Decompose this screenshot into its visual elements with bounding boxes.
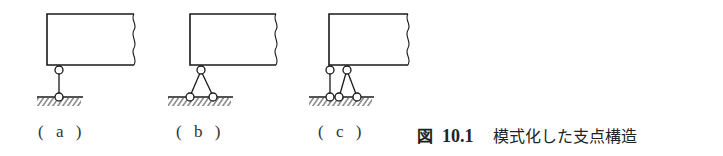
- panel-c: [309, 14, 409, 106]
- pin-top-a: [55, 66, 63, 74]
- pin-top-c-left: [326, 66, 334, 74]
- pin-bottom-c-3: [353, 93, 361, 101]
- beam-c: [329, 14, 408, 65]
- panel-label-a: ( a ): [38, 122, 85, 142]
- caption-number: 10.1: [442, 126, 474, 146]
- link-b-left: [191, 73, 200, 94]
- pin-bottom-b-left: [186, 93, 194, 101]
- pin-bottom-b-right: [209, 93, 217, 101]
- beam-a-break-edge: [133, 14, 135, 65]
- link-c-right: [348, 73, 356, 94]
- beam-c-break-edge: [407, 14, 409, 65]
- pin-bottom-a: [55, 93, 63, 101]
- link-c-left: [340, 73, 346, 94]
- panel-label-c: ( c ): [318, 122, 365, 142]
- pin-top-b: [197, 66, 205, 74]
- figure-caption: 図 10.1 模式化した支点構造: [417, 123, 637, 147]
- pin-bottom-c-2: [335, 93, 343, 101]
- pin-top-c-right: [343, 66, 351, 74]
- ground-hatch-b: [168, 98, 231, 106]
- pin-bottom-c-1: [326, 93, 334, 101]
- beam-b: [190, 14, 276, 65]
- panel-b: [168, 14, 277, 106]
- beam-b-break-edge: [275, 14, 277, 65]
- caption-prefix: 図: [417, 127, 433, 146]
- panel-label-b: ( b ): [176, 122, 224, 142]
- caption-text: 模式化した支点構造: [493, 127, 637, 146]
- link-b-right: [202, 73, 212, 94]
- panel-a: [37, 14, 135, 106]
- beam-a: [47, 14, 134, 65]
